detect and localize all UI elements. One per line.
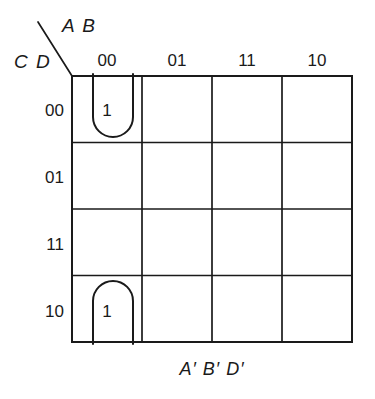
karnaugh-map-figure: A B C D 00 01 11 10 00 01 11 10 1 1: [0, 0, 375, 399]
cell-r00-c00: 1: [72, 102, 142, 119]
figure-caption: A′ B′ D′: [72, 360, 352, 378]
cell-r10-c00: 1: [72, 303, 142, 320]
axis-diagonal-line: [38, 22, 72, 76]
kmap-grid-overlay: [0, 0, 375, 399]
